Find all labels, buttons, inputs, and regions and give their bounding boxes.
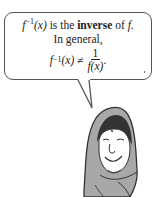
woman-cartoon-icon (0, 0, 159, 197)
